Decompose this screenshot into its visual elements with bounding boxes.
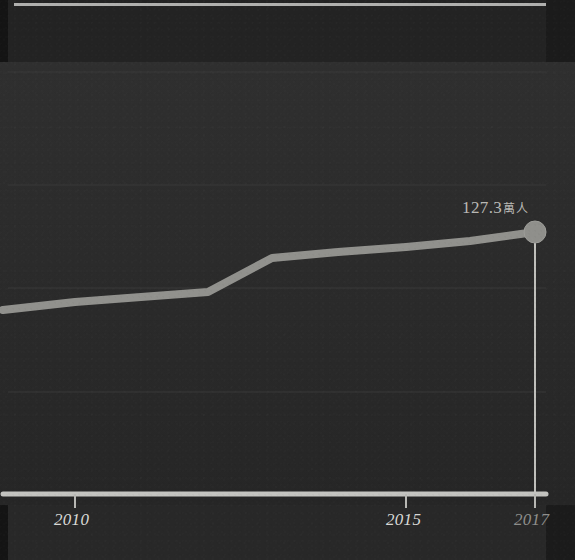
x-tick-label-2015: 2015: [386, 510, 421, 530]
value-annotation-number: 127.3: [462, 198, 502, 217]
value-annotation: 127.3萬人: [462, 198, 528, 218]
value-annotation-unit: 萬人: [503, 202, 528, 216]
line-chart-plot: [0, 0, 575, 560]
chart-screenshot: 2010 2015 2017 127.3萬人: [0, 0, 575, 560]
end-point-marker[interactable]: [524, 221, 546, 243]
plot-background: [0, 62, 575, 505]
x-tick-label-2010: 2010: [54, 510, 89, 530]
x-tick-label-2017: 2017: [514, 510, 549, 530]
